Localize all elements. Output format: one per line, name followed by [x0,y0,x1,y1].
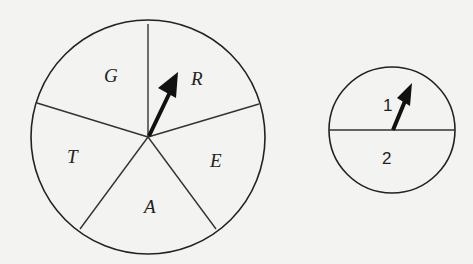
large-pointer-shaft [149,90,171,136]
sector-label-g: G [104,65,118,86]
small-spinner-pointer-arrow-icon[interactable] [393,83,412,130]
small-pointer-head [397,83,412,106]
sector-label-e: E [209,150,222,171]
sector-label-r: R [190,68,203,89]
large-spinner-pointer-arrow-icon[interactable] [149,72,178,136]
divider-upper-left [37,103,148,137]
divider-lower-right [148,137,216,229]
spinner-figure: G R E A T 1 2 [0,0,473,264]
small-pointer-shaft [393,101,405,130]
sector-label-t: T [67,146,79,167]
section-label-1: 1 [383,96,392,115]
divider-upper-right [148,104,259,137]
section-label-2: 2 [382,149,391,168]
spinners-diagram: G R E A T 1 2 [0,0,473,264]
large-spinner: G R E A T [31,20,265,254]
divider-lower-left [80,137,148,229]
sector-label-a: A [142,196,156,217]
small-spinner: 1 2 [329,67,455,193]
